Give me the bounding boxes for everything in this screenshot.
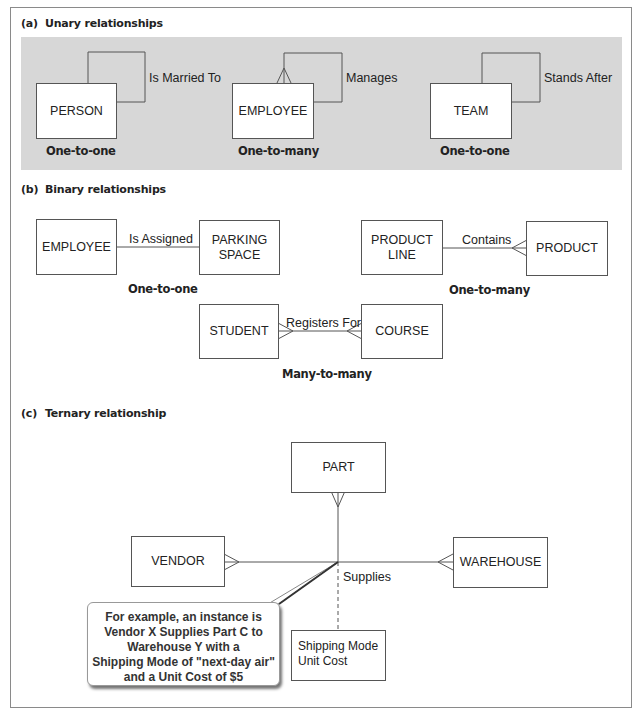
example-callout: For example, an instance is Vendor X Sup…	[87, 602, 280, 686]
callout-line-4: Shipping Mode of "next-day air"	[92, 655, 275, 670]
callout-line-3: Warehouse Y with a	[92, 640, 275, 655]
callout-line-5: and a Unit Cost of $5	[92, 670, 275, 685]
callout-line-2: Vendor X Supplies Part C to	[92, 625, 275, 640]
callout-line-1: For example, an instance is	[92, 610, 275, 625]
